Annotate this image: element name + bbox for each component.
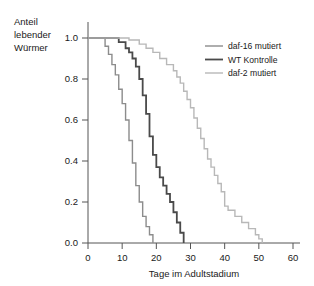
- y-tick-label: 0.8: [65, 73, 78, 84]
- y-axis-label-line-1: Anteil: [14, 16, 38, 27]
- x-tick-label: 60: [288, 252, 299, 263]
- y-axis-label-line-2: lebender: [14, 29, 51, 40]
- x-tick-label: 10: [117, 252, 128, 263]
- y-tick-label: 1.0: [65, 32, 78, 43]
- y-tick-label: 0.4: [65, 155, 78, 166]
- y-tick-label: 0.6: [65, 114, 78, 125]
- survival-curve-chart: Anteil lebender Würmer 0.00.20.40.60.81.…: [0, 0, 314, 286]
- y-tick-label: 0.0: [65, 237, 78, 248]
- x-tick-label: 30: [185, 252, 196, 263]
- x-tick-label: 20: [151, 252, 162, 263]
- x-tick-label: 0: [85, 252, 90, 263]
- y-tick-label: 0.2: [65, 196, 78, 207]
- x-tick-label: 50: [254, 252, 265, 263]
- x-tick-label: 40: [219, 252, 230, 263]
- y-axis-label-line-3: Würmer: [14, 42, 48, 53]
- legend-label-3: daf-2 mutiert: [228, 68, 277, 78]
- x-axis-label: Tage im Adultstadium: [149, 268, 239, 279]
- legend-label-1: daf-16 mutiert: [228, 41, 282, 51]
- legend-label-2: WT Kontrolle: [228, 55, 278, 65]
